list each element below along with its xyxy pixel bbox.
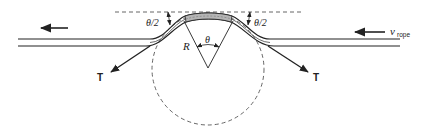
label-half-angle-right: θ/2 bbox=[254, 17, 267, 28]
rope-pulley-diagram: θ/2 θ/2 R θ T T v rope bbox=[0, 0, 421, 129]
half-angle-arc-left bbox=[168, 12, 170, 25]
label-velocity: v bbox=[390, 25, 395, 37]
label-theta: θ bbox=[205, 34, 210, 45]
half-angle-arc-right bbox=[248, 12, 250, 25]
label-tension-left: T bbox=[97, 72, 103, 83]
label-tension-right: T bbox=[313, 72, 319, 83]
tension-vector-left bbox=[111, 46, 150, 72]
label-velocity-subscript: rope bbox=[397, 31, 410, 39]
label-half-angle-left: θ/2 bbox=[146, 17, 159, 28]
tension-vector-right bbox=[268, 46, 308, 72]
label-radius: R bbox=[182, 40, 190, 52]
